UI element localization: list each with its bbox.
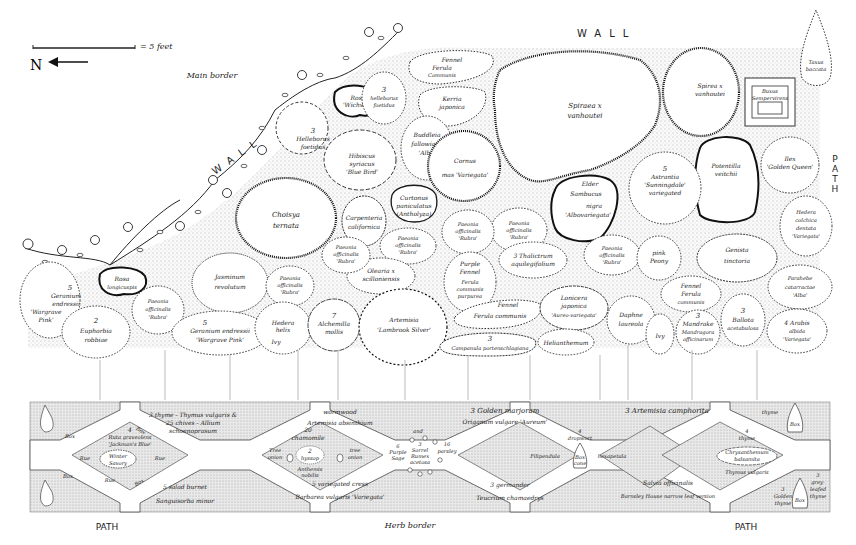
bed-arabis[interactable]: 4 Arabis albida 'Variegata': [767, 309, 827, 353]
svg-text:Choisya: Choisya: [272, 211, 300, 219]
bed-thalictrum[interactable]: 3 Thalictrum aquilegifolium: [499, 242, 567, 278]
bed-paeonia-g[interactable]: Paeonia officinalis 'Rubra': [322, 237, 370, 273]
bed-mandrake[interactable]: 3 Mandrake Mandragora officinarum: [676, 310, 720, 354]
bed-alchemilla[interactable]: 7 Alchemilla mollis: [308, 299, 360, 351]
arrow-head-icon: [48, 57, 58, 67]
svg-text:'Wargrave: 'Wargrave: [31, 308, 62, 316]
svg-text:Fennel: Fennel: [497, 301, 519, 308]
bed-artemisia-lambrook[interactable]: Artemisia 'Lambrook Silver': [359, 289, 447, 365]
rose-flower-icon: [176, 222, 185, 231]
svg-text:Paeonia: Paeonia: [601, 245, 623, 251]
bed-helianthemum[interactable]: Helianthemum: [538, 329, 594, 355]
svg-text:foetidus: foetidus: [372, 102, 395, 109]
svg-text:'Lambrook Silver': 'Lambrook Silver': [377, 326, 431, 333]
svg-text:communis: communis: [457, 286, 484, 292]
svg-text:baccata: baccata: [806, 66, 827, 72]
bed-astrantia[interactable]: 5 Astrantia 'Sunningdale' variegated: [629, 152, 701, 224]
svg-text:nigra: nigra: [586, 202, 602, 210]
bed-genista[interactable]: Genista tinctoria: [697, 234, 777, 282]
svg-text:3 Golden marjoram: 3 Golden marjoram: [471, 407, 540, 415]
svg-text:3: 3: [382, 86, 387, 94]
bed-parahebe[interactable]: Parahebe catarractae 'Alba': [768, 265, 832, 309]
svg-text:T: T: [831, 174, 838, 184]
bed-taxus[interactable]: Taxus baccata: [801, 10, 832, 86]
bed-ilex[interactable]: Ilex 'Golden Queen': [761, 137, 819, 193]
svg-text:Ilex: Ilex: [783, 155, 796, 162]
bed-paeonia-c[interactable]: Paeonia officinalis 'Rubra': [442, 210, 494, 254]
svg-text:hexapetala: hexapetala: [598, 453, 627, 460]
bed-jasminum[interactable]: Jasminum revolutum: [192, 253, 268, 313]
svg-text:tinctoria: tinctoria: [724, 257, 750, 264]
svg-text:helleborus: helleborus: [370, 95, 398, 101]
svg-text:foetidus: foetidus: [300, 143, 326, 151]
bed-choisya[interactable]: Choisya ternata: [236, 178, 336, 258]
svg-text:Tree: Tree: [269, 447, 281, 453]
bed-fennel-2[interactable]: Fennel Ferula communis: [661, 276, 721, 312]
bed-rosa-longicuspis[interactable]: Rosa longicuspis: [99, 267, 146, 295]
svg-text:californica: californica: [348, 223, 381, 231]
svg-text:16: 16: [444, 441, 451, 447]
svg-text:japonica: japonica: [437, 103, 465, 111]
svg-text:Peony: Peony: [649, 257, 669, 265]
bed-curtonus[interactable]: Curtonus paniculatus (Antholyza): [391, 185, 437, 222]
svg-text:Paeonia: Paeonia: [508, 220, 530, 226]
garden-plan: = 5 feet N Main border WALL WALL P A T H: [0, 0, 856, 545]
svg-text:'Blue Bird': 'Blue Bird': [346, 168, 378, 175]
bed-ivy-small[interactable]: Ivy: [646, 314, 674, 354]
bed-euphorbia[interactable]: 2 Euphorbia robbiae: [62, 306, 130, 358]
bed-lonicera[interactable]: Lonicera japonica 'Aureo-variegata': [540, 286, 608, 330]
svg-text:'Variegata': 'Variegata': [792, 233, 820, 240]
svg-text:scilloniensis: scilloniensis: [362, 275, 399, 282]
svg-text:Box: Box: [794, 497, 805, 503]
svg-text:3: 3: [696, 312, 701, 320]
bed-pink-peony[interactable]: pink Peony: [637, 236, 681, 280]
svg-text:Sanguisorba minor: Sanguisorba minor: [156, 497, 215, 505]
bed-hedera-helix[interactable]: Hedera helix Ivy: [255, 302, 311, 354]
svg-text:'Rubra': 'Rubra': [281, 289, 300, 295]
svg-text:'Rubra': 'Rubra': [510, 234, 529, 240]
svg-text:colchica: colchica: [795, 217, 817, 223]
bed-hibiscus[interactable]: Hibiscus syriacus 'Blue Bird': [324, 130, 396, 190]
svg-text:Alchemilla: Alchemilla: [317, 320, 350, 327]
svg-text:revolutum: revolutum: [214, 283, 245, 290]
svg-text:Buddleia: Buddleia: [413, 131, 441, 138]
bed-spiraea-small[interactable]: Spirea x vanhoutei: [663, 48, 739, 136]
svg-text:chamomile: chamomile: [291, 434, 325, 441]
herb-thyme-top-right[interactable]: thyme: [762, 409, 778, 416]
bed-geranium-2[interactable]: 5 Geranium endressii 'Wargrave Pink': [172, 311, 268, 355]
svg-text:Paeonia: Paeonia: [335, 244, 357, 250]
svg-text:5 variegated cress: 5 variegated cress: [312, 480, 368, 488]
svg-text:Purple: Purple: [459, 260, 481, 268]
bed-cornus[interactable]: Cornus mas 'Variegata': [428, 131, 500, 201]
svg-text:Rue: Rue: [79, 455, 90, 461]
svg-text:Box: Box: [62, 473, 73, 479]
bed-ballota[interactable]: 3 Ballota acetabulosa: [721, 294, 765, 346]
svg-text:Sambucus: Sambucus: [570, 190, 601, 197]
svg-text:'Jackman's Blue': 'Jackman's Blue': [108, 441, 151, 448]
svg-text:Fennel: Fennel: [459, 268, 481, 275]
svg-text:vanhoutei: vanhoutei: [695, 90, 725, 97]
rose-flower-icon: [91, 236, 100, 245]
svg-text:thyme: thyme: [810, 493, 826, 500]
svg-text:'Albovariegata': 'Albovariegata': [565, 211, 611, 219]
svg-text:Mandrake: Mandrake: [681, 320, 714, 327]
svg-text:acetosa: acetosa: [410, 459, 430, 465]
bed-potentilla[interactable]: Potentilla veitchii: [695, 137, 758, 222]
svg-text:2: 2: [93, 317, 99, 325]
svg-text:Parahebe: Parahebe: [787, 275, 813, 281]
herb-artemisia-camphorata[interactable]: 3 Artemisia camphorita: [625, 407, 709, 415]
bed-paeonia-d[interactable]: Paeonia officinalis 'Rubra': [266, 266, 314, 306]
bed-buxus[interactable]: Buxus Sempervirens: [745, 78, 795, 126]
bed-paeonia-e[interactable]: Paeonia officinalis 'Rubra': [584, 235, 640, 275]
svg-text:Pink': Pink': [37, 316, 53, 323]
svg-text:Helleborus: Helleborus: [295, 135, 329, 142]
svg-text:Ferula: Ferula: [680, 290, 701, 297]
svg-text:Jasminum: Jasminum: [213, 273, 245, 281]
svg-text:Artemisia: Artemisia: [388, 316, 419, 323]
svg-text:onion: onion: [268, 454, 283, 460]
svg-text:thyme: thyme: [739, 435, 755, 442]
bed-hedera-colchica[interactable]: Hedera colchica dentata 'Variegata': [780, 196, 832, 256]
svg-text:4 Arabis: 4 Arabis: [783, 319, 809, 326]
svg-text:officinalis: officinalis: [145, 306, 171, 313]
bed-helleborus-1[interactable]: 3 helleborus foetidus: [362, 72, 406, 124]
